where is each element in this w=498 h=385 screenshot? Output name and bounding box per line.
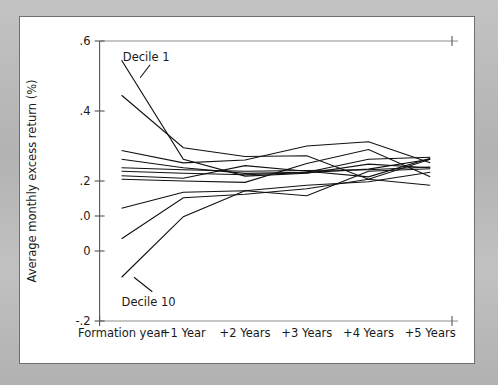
annotation-leader-line [140,65,150,78]
y-tick-label: .4 [80,104,91,118]
figure-root: .6.4.2.00-.2Average monthly excess retur… [0,0,498,385]
y-tick-label: .2 [80,174,91,188]
series-annotation-label: Decile 10 [122,295,176,309]
y-axis-title: Average monthly excess return (%) [25,79,39,282]
annotation-leader-line [134,277,152,292]
chart-panel: .6.4.2.00-.2Average monthly excess retur… [19,16,475,364]
x-tick-label: Formation year [78,326,166,340]
x-tick-label: +2 Years [220,326,271,340]
y-tick-label: 0 [83,244,90,258]
x-tick-label: +1 Year [161,326,206,340]
x-tick-label: +5 Years [405,326,456,340]
y-tick-label: .6 [80,34,91,48]
series-line [122,142,431,163]
x-tick-label: +4 Years [343,326,394,340]
excess-return-line-chart: .6.4.2.00-.2Average monthly excess retur… [20,17,474,363]
series-annotation-label: Decile 1 [123,50,170,64]
x-tick-label: +3 Years [281,326,332,340]
y-tick-label: .0 [80,209,91,223]
series-line [122,172,431,277]
